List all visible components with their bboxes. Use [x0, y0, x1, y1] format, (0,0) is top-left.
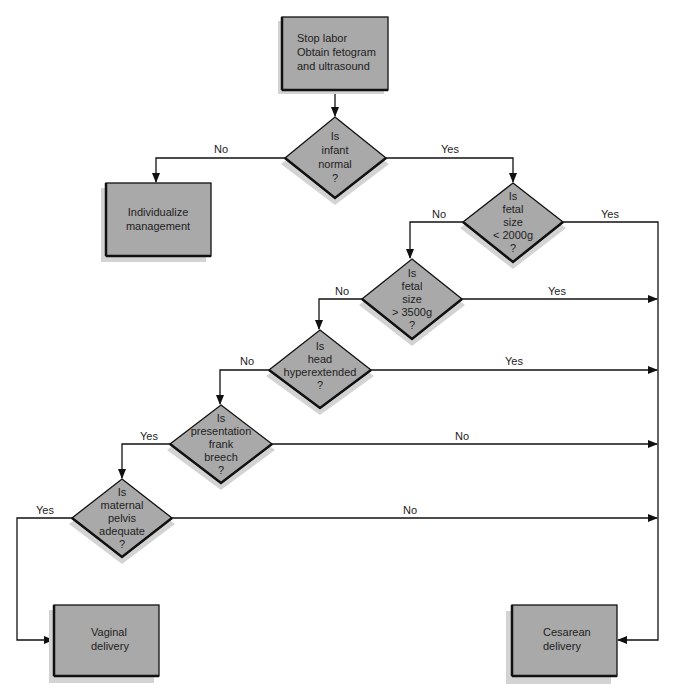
node-cesarean-line-2: delivery: [543, 640, 581, 652]
edge-lt2000-yes: [563, 222, 658, 640]
decision-breech-line-3: frank: [209, 438, 234, 450]
node-individualize-line-2: management: [126, 220, 190, 232]
decision-breech-line-4: breech: [204, 451, 238, 463]
decision-breech-line-2: presentation: [191, 425, 252, 437]
decision-pelvis-adequate: Is maternal pelvis adequate ?: [69, 479, 175, 564]
decision-head-line-2: head: [308, 353, 332, 365]
decision-lt2000-line-4: < 2000g: [493, 229, 533, 241]
decision-lt2000-line-2: fetal: [503, 203, 524, 215]
edge-infant-no: [156, 158, 285, 182]
edge-lt2000-no: [410, 222, 463, 258]
label-infant-yes: Yes: [441, 143, 459, 155]
label-breech-yes: Yes: [140, 430, 158, 442]
decision-breech-line-1: Is: [217, 412, 226, 424]
decision-lt2000-line-3: size: [503, 216, 523, 228]
decision-breech-line-5: ?: [218, 464, 224, 476]
decision-fetal-size-gt-3500: Is fetal size > 3500g ?: [359, 259, 465, 346]
label-head-no: No: [240, 355, 254, 367]
label-breech-no: No: [455, 430, 469, 442]
label-pelvis-yes: Yes: [36, 504, 54, 516]
decision-frank-breech: Is presentation frank breech ?: [167, 405, 275, 490]
decision-infant-line-3: normal: [318, 158, 352, 170]
decision-infant-line-2: infant: [322, 144, 349, 156]
node-individualize-line-1: Individualize: [128, 206, 189, 218]
label-pelvis-no: No: [403, 504, 417, 516]
decision-infant-line-1: Is: [331, 130, 340, 142]
label-gt3500-no: No: [335, 285, 349, 297]
decision-head-line-3: hyperextended: [284, 366, 357, 378]
label-head-yes: Yes: [505, 355, 523, 367]
edge-breech-yes: [122, 444, 170, 478]
decision-gt3500-line-3: size: [402, 293, 422, 305]
edge-infant-yes: [386, 158, 513, 182]
node-start-line-3: and ultrasound: [297, 60, 370, 72]
flowchart-canvas: No Yes No Yes No Yes No Yes Yes No Yes N…: [0, 0, 674, 694]
decision-infant-line-4: ?: [332, 172, 338, 184]
node-cesarean-delivery: Cesarean delivery: [506, 605, 617, 684]
decision-gt3500-line-1: Is: [408, 267, 417, 279]
label-lt2000-no: No: [432, 208, 446, 220]
decision-fetal-size-lt-2000: Is fetal size < 2000g ?: [460, 183, 566, 269]
decision-gt3500-line-2: fetal: [402, 280, 423, 292]
node-start-line-2: Obtain fetogram: [297, 46, 376, 58]
decision-head-hyperextended: Is head hyperextended ?: [266, 330, 374, 415]
decision-head-line-4: ?: [317, 379, 323, 391]
decision-pelvis-line-5: ?: [119, 538, 125, 550]
edge-head-no: [220, 370, 269, 404]
node-vaginal-line-1: Vaginal: [91, 626, 127, 638]
decision-head-line-1: Is: [316, 340, 325, 352]
decision-pelvis-line-2: maternal: [101, 499, 144, 511]
node-vaginal-line-2: delivery: [91, 640, 129, 652]
node-start-line-1: Stop labor: [297, 32, 347, 44]
label-infant-no: No: [214, 143, 228, 155]
node-vaginal-delivery: Vaginal delivery: [49, 605, 159, 683]
node-cesarean-line-1: Cesarean: [543, 626, 591, 638]
decision-pelvis-line-1: Is: [118, 486, 127, 498]
decision-lt2000-line-1: Is: [509, 190, 518, 202]
decision-gt3500-line-5: ?: [409, 319, 415, 331]
label-gt3500-yes: Yes: [548, 285, 566, 297]
decision-infant-normal: Is infant normal ?: [281, 117, 389, 205]
edge-gt3500-no: [319, 299, 362, 329]
decision-pelvis-line-4: adequate: [99, 525, 145, 537]
node-start: Stop labor Obtain fetogram and ultrasoun…: [278, 17, 388, 94]
decision-pelvis-line-3: pelvis: [108, 512, 137, 524]
node-individualize: Individualize management: [101, 183, 211, 262]
decision-lt2000-line-5: ?: [510, 242, 516, 254]
label-lt2000-yes: Yes: [601, 208, 619, 220]
decision-gt3500-line-4: > 3500g: [392, 306, 432, 318]
